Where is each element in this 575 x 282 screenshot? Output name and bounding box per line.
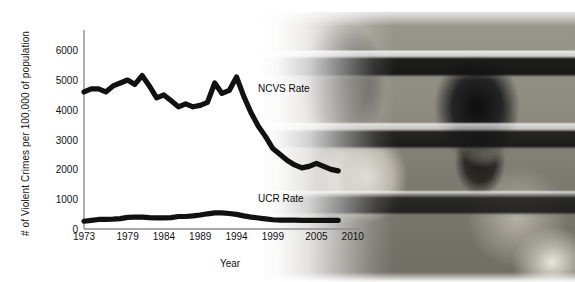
series-line-ucr-rate [84,213,338,221]
chart-figure: # of Violent Crimes per 100,000 of popul… [0,0,575,282]
series-label-ucr: UCR Rate [258,193,304,204]
line-chart: # of Violent Crimes per 100,000 of popul… [0,0,575,282]
series-label-ncvs: NCVS Rate [258,83,310,94]
plot-area [0,0,575,282]
